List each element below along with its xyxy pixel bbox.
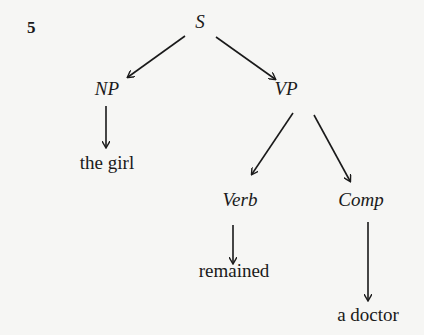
word-node-remained: remained bbox=[199, 260, 270, 282]
category-node-s: S bbox=[195, 11, 205, 33]
arrow-icon bbox=[128, 36, 185, 77]
category-node-comp: Comp bbox=[338, 189, 383, 211]
word-node-the-girl: the girl bbox=[80, 152, 134, 174]
category-node-verb: Verb bbox=[223, 189, 258, 211]
word-node-a-doctor: a doctor bbox=[337, 304, 399, 326]
category-node-vp: VP bbox=[274, 78, 297, 100]
arrow-icon bbox=[216, 37, 275, 79]
tree-edges bbox=[0, 0, 424, 335]
category-node-np: NP bbox=[95, 78, 119, 100]
arrow-icon bbox=[314, 115, 350, 181]
arrow-icon bbox=[252, 113, 293, 174]
